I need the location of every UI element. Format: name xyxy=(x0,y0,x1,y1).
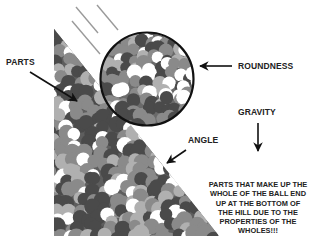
angle-arrow xyxy=(167,150,186,163)
explanation-line: WHOLES!!! xyxy=(193,226,323,235)
explanation-line: PARTS THAT MAKE UP THE xyxy=(193,180,323,189)
explanation-text: PARTS THAT MAKE UP THE WHOLE OF THE BALL… xyxy=(193,180,323,236)
gravity-label: GRAVITY xyxy=(238,108,276,117)
motion-lines xyxy=(72,5,118,54)
explanation-line: WHOLE OF THE BALL END xyxy=(193,189,323,198)
roundness-label: ROUNDNESS xyxy=(238,62,293,71)
explanation-line: THE HILL DUE TO THE xyxy=(193,208,323,217)
diagram-canvas: PARTS ROUNDNESS GRAVITY ANGLE PARTS THAT… xyxy=(0,0,326,247)
parts-label: PARTS xyxy=(6,58,35,67)
explanation-line: PROPERTIES OF THE xyxy=(193,217,323,226)
explanation-line: UP AT THE BOTTOM OF xyxy=(193,199,323,208)
angle-label: ANGLE xyxy=(188,136,218,145)
